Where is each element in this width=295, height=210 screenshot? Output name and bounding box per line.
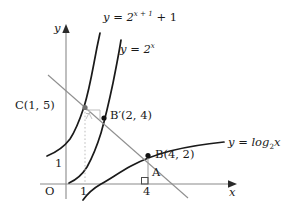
math-figure-exponential-log: y = 2x + 1 + 1 y = 2x y = log2x C(1, 5) … — [0, 0, 295, 210]
curve-label-log: y = log2x — [228, 137, 280, 150]
y-axis-arrowhead — [62, 24, 69, 33]
point-label-c: C(1, 5) — [15, 100, 55, 112]
point-label-bprime: B′(2, 4) — [110, 110, 152, 122]
curve-exp-shifted — [47, 33, 100, 156]
point-marker-b — [145, 153, 150, 158]
point-label-b: B(4, 2) — [155, 149, 194, 161]
point-marker-bprime — [101, 115, 106, 120]
y-axis-tick-label-1: 1 — [55, 158, 62, 170]
axis-origin-label: O — [45, 186, 54, 198]
x-axis-label: x — [229, 187, 236, 199]
point-marker-c — [82, 105, 87, 110]
x-axis-tick-label-1: 1 — [80, 186, 87, 198]
line-through-c-bprime-b — [48, 75, 188, 198]
curve-label-exp-shifted: y = 2x + 1 + 1 — [103, 10, 177, 23]
x-axis-tick-label-4: 4 — [143, 186, 150, 198]
point-label-a: A — [152, 167, 160, 179]
curve-label-exp: y = 2x — [120, 42, 155, 55]
y-axis-label: y — [54, 23, 61, 35]
